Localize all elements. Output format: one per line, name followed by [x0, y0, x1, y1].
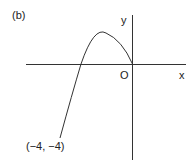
start-point-label: (−4, −4)	[26, 141, 65, 152]
x-axis-label: x	[179, 70, 185, 81]
origin-label: O	[120, 70, 129, 81]
y-axis-label: y	[121, 15, 127, 26]
panel-label: (b)	[12, 10, 25, 21]
parabola-curve	[60, 32, 133, 138]
